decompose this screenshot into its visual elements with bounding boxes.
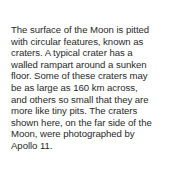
text-line: more like tiny pits. The craters — [11, 105, 179, 117]
text-line: and others so small that they are — [11, 94, 179, 106]
text-line: The surface of the Moon is pitted — [11, 24, 179, 36]
text-line: craters. A typical crater has a — [11, 47, 179, 59]
text-line: floor. Some of these craters may — [11, 70, 179, 82]
text-line: Apollo 11. — [11, 140, 179, 152]
text-line: shown here, on the far side of the — [11, 117, 179, 129]
text-line: be as large as 160 km across, — [11, 82, 179, 94]
text-line: with circular features, known as — [11, 36, 179, 48]
text-line: walled rampart around a sunken — [11, 59, 179, 71]
text-line: Moon, were photographed by — [11, 128, 179, 140]
body-paragraph: The surface of the Moon is pitted with c… — [11, 24, 179, 152]
